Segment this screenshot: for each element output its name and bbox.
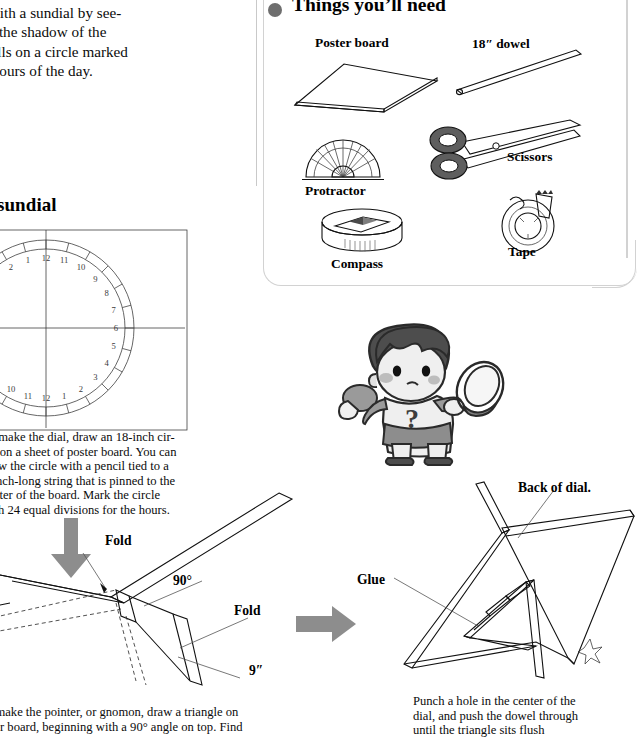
- poster-board-icon: [287, 47, 447, 112]
- poster-board-label: Poster board: [315, 35, 389, 51]
- fold-label-top: Fold: [105, 533, 131, 549]
- dial-hour-number: 5: [111, 341, 115, 351]
- dowel-icon: [454, 48, 584, 96]
- dial-hour-number: 9: [93, 274, 97, 284]
- things-panel-title: Things you’ll need: [292, 0, 446, 16]
- length-label: 9″: [249, 663, 263, 679]
- dial-hour-number: 1: [62, 391, 66, 401]
- section-heading: g a sundial: [0, 194, 57, 216]
- dial-hour-number: 11: [24, 391, 32, 401]
- fold-label-right: Fold: [234, 603, 260, 619]
- panel-rounded-corner: [592, 240, 636, 288]
- dial-hour-number: 3: [93, 372, 97, 382]
- dial-hour-number: 2: [79, 384, 83, 394]
- scissors-label: Scissors: [507, 149, 552, 165]
- dial-hour-number: 12: [42, 393, 51, 403]
- angle-label: 90°: [173, 573, 192, 589]
- bullet-icon: [268, 3, 282, 17]
- boy-with-magnifying-glass: ?: [330, 306, 510, 466]
- panel-right-edge: [626, 0, 628, 258]
- dowel-label: 18″ dowel: [472, 36, 530, 52]
- scissors-icon: [424, 116, 584, 188]
- dial-hour-number: 10: [7, 384, 16, 394]
- column-divider-rule: [256, 0, 257, 186]
- compass-icon: [319, 208, 405, 256]
- dial-hour-number: 2: [9, 262, 13, 272]
- sundial-dial-face: 121110987654321121110987654321: [0, 230, 190, 430]
- dial-hour-number: 8: [104, 288, 108, 298]
- dial-hour-number: 1: [26, 255, 30, 265]
- page-root: ce ancient times. You can still time wit…: [0, 0, 637, 738]
- dial-hour-number: 10: [77, 262, 86, 272]
- protractor-icon: [302, 137, 384, 183]
- right-arrow-icon: [296, 604, 358, 644]
- protractor-label: Protractor: [305, 183, 366, 199]
- intro-paragraph: ce ancient times. You can still time wit…: [0, 0, 258, 81]
- glue-label: Glue: [357, 572, 385, 588]
- compass-label: Compass: [331, 256, 383, 272]
- dial-hour-number: 4: [104, 358, 109, 368]
- back-of-dial-label: Back of dial.: [518, 480, 591, 496]
- gnomon-caption: o make the pointer, or gnomon, draw a tr…: [0, 705, 266, 734]
- final-caption: Punch a hole in the center of the dial, …: [413, 694, 637, 738]
- tape-label: Tape: [508, 244, 536, 260]
- dial-hour-number: 7: [111, 305, 116, 315]
- dial-hour-number: 11: [60, 255, 68, 265]
- dial-hour-number: 6: [114, 323, 119, 333]
- dial-hour-number: 12: [42, 253, 51, 263]
- assembled-dial-diagram: [378, 478, 637, 688]
